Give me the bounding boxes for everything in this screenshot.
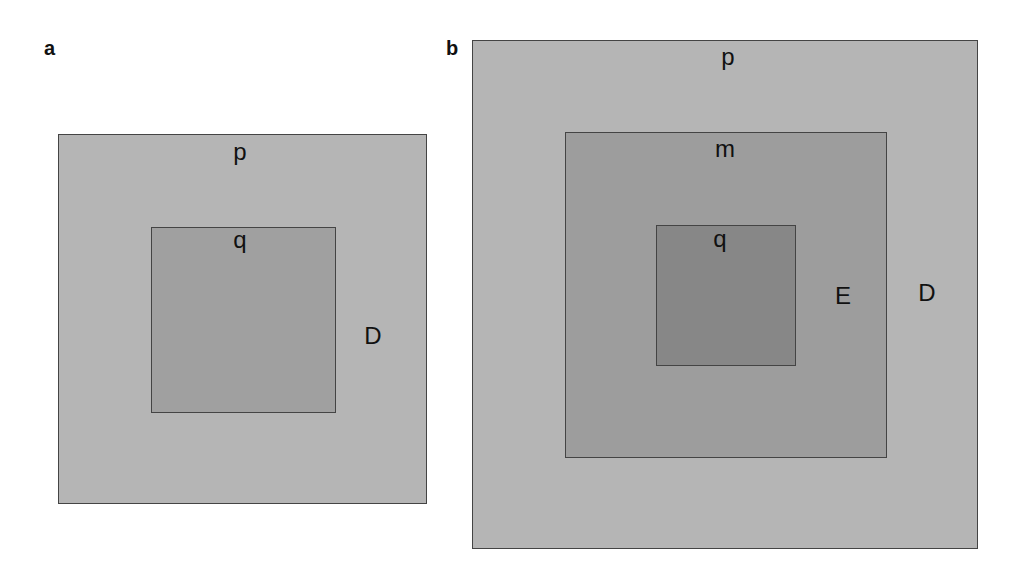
panel-label-b: b	[446, 38, 458, 58]
region-q-box	[151, 227, 336, 413]
label-q: q	[233, 228, 246, 252]
label-m: m	[715, 137, 735, 161]
label-e: E	[835, 284, 851, 308]
label-q: q	[713, 227, 726, 251]
label-d: D	[364, 324, 381, 348]
panel-label-a: a	[44, 38, 55, 58]
label-p: p	[721, 45, 734, 69]
label-d: D	[918, 281, 935, 305]
label-p: p	[233, 140, 246, 164]
